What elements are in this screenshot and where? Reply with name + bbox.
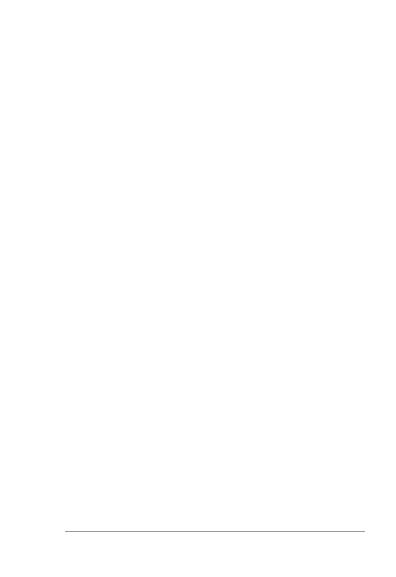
chart-legend: [0, 556, 396, 572]
x-axis: [0, 531, 396, 553]
x-axis-line: [65, 531, 365, 532]
likert-chart: [0, 0, 396, 577]
